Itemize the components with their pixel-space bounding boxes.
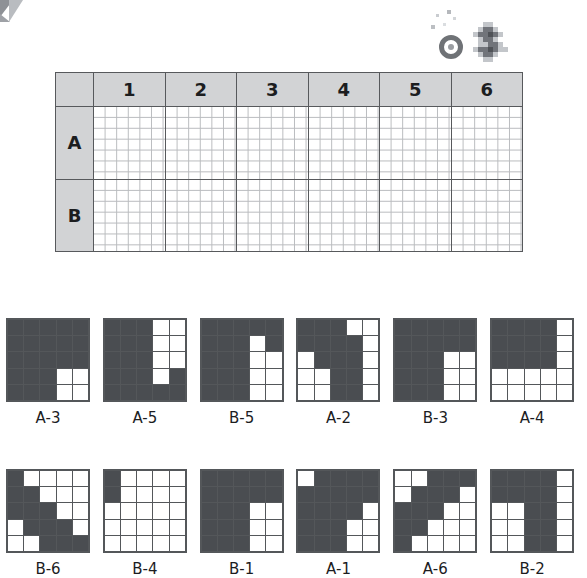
pattern-cell-r5-c3 bbox=[40, 385, 55, 400]
pattern-cell-r1-c3 bbox=[137, 320, 152, 335]
pattern-cell-r1-c3 bbox=[234, 471, 249, 486]
pattern-cell-r3-c4 bbox=[57, 352, 72, 367]
pattern-tile-a-4[interactable]: A-4 bbox=[490, 318, 587, 427]
pattern-cell-r1-c2 bbox=[24, 320, 39, 335]
pattern-cell-r5-c1 bbox=[202, 536, 217, 551]
row-header-b: B bbox=[56, 180, 94, 252]
pattern-cell-r1-c5 bbox=[73, 320, 88, 335]
answer-block-b3[interactable] bbox=[237, 180, 309, 252]
pattern-cell-r1-c2 bbox=[315, 320, 330, 335]
pattern-tile-a-6[interactable]: A-6 bbox=[393, 469, 490, 578]
pattern-cell-r3-c1 bbox=[395, 503, 410, 518]
pattern-cell-r5-c3 bbox=[331, 536, 346, 551]
pattern-tile-a-3[interactable]: A-3 bbox=[6, 318, 103, 427]
pattern-cell-r1-c2 bbox=[24, 471, 39, 486]
pattern-cell-r2-c4 bbox=[57, 487, 72, 502]
pattern-cell-r5-c4 bbox=[153, 536, 168, 551]
pattern-grid bbox=[296, 469, 380, 553]
sparkle-pixel-icon bbox=[443, 23, 446, 26]
pattern-tile-a-1[interactable]: A-1 bbox=[296, 469, 393, 578]
pattern-cell-r2-c1 bbox=[395, 336, 410, 351]
pattern-cell-r4-c5 bbox=[557, 369, 572, 384]
pattern-cell-r2-c2 bbox=[218, 336, 233, 351]
pattern-tile-a-2[interactable]: A-2 bbox=[296, 318, 393, 427]
pattern-cell-r2-c1 bbox=[202, 336, 217, 351]
pixel-blob-cell bbox=[493, 52, 498, 57]
pattern-tile-b-3[interactable]: B-3 bbox=[393, 318, 490, 427]
pattern-cell-r2-c2 bbox=[508, 336, 523, 351]
pattern-cell-r2-c2 bbox=[218, 487, 233, 502]
pattern-cell-r1-c2 bbox=[121, 471, 136, 486]
pattern-tile-b-2[interactable]: B-2 bbox=[490, 469, 587, 578]
pattern-cell-r4-c1 bbox=[492, 520, 507, 535]
pattern-cell-r5-c5 bbox=[266, 385, 281, 400]
pattern-cell-r3-c5 bbox=[73, 503, 88, 518]
pattern-cell-r4-c5 bbox=[73, 520, 88, 535]
pattern-label: A-2 bbox=[296, 409, 380, 427]
answer-block-a6[interactable] bbox=[452, 107, 523, 179]
answer-block-a3[interactable] bbox=[237, 107, 309, 179]
pattern-cell-r5-c5 bbox=[73, 536, 88, 551]
pattern-cell-r4-c2 bbox=[412, 520, 427, 535]
pattern-cell-r1-c4 bbox=[444, 320, 459, 335]
pattern-cell-r1-c3 bbox=[428, 471, 443, 486]
pattern-cell-r4-c1 bbox=[395, 369, 410, 384]
answer-block-a4[interactable] bbox=[309, 107, 381, 179]
answer-block-b4[interactable] bbox=[309, 180, 381, 252]
pattern-cell-r1-c1 bbox=[298, 320, 313, 335]
pattern-cell-r2-c2 bbox=[315, 336, 330, 351]
pattern-tile-b-4[interactable]: B-4 bbox=[103, 469, 200, 578]
pattern-cell-r1-c4 bbox=[153, 471, 168, 486]
answer-block-a5[interactable] bbox=[380, 107, 452, 179]
pattern-cell-r3-c4 bbox=[444, 503, 459, 518]
pattern-cell-r1-c4 bbox=[250, 471, 265, 486]
pattern-cell-r4-c1 bbox=[298, 369, 313, 384]
pattern-cell-r5-c2 bbox=[412, 385, 427, 400]
pattern-cell-r3-c5 bbox=[363, 503, 378, 518]
pattern-label: B-1 bbox=[200, 560, 284, 578]
pattern-cell-r4-c2 bbox=[315, 520, 330, 535]
pattern-cell-r2-c2 bbox=[412, 336, 427, 351]
pattern-cell-r4-c4 bbox=[444, 520, 459, 535]
pattern-cell-r4-c1 bbox=[395, 520, 410, 535]
answer-block-a1[interactable] bbox=[94, 107, 166, 179]
pattern-cell-r3-c3 bbox=[40, 352, 55, 367]
pattern-cell-r5-c3 bbox=[234, 536, 249, 551]
pattern-cell-r1-c1 bbox=[105, 320, 120, 335]
pattern-cell-r4-c1 bbox=[105, 369, 120, 384]
pattern-cell-r4-c3 bbox=[234, 520, 249, 535]
pattern-tile-b-6[interactable]: B-6 bbox=[6, 469, 103, 578]
pattern-cell-r5-c4 bbox=[541, 385, 556, 400]
pattern-cell-r1-c3 bbox=[137, 471, 152, 486]
pattern-tile-b-1[interactable]: B-1 bbox=[200, 469, 297, 578]
pattern-cell-r3-c1 bbox=[395, 352, 410, 367]
pattern-cell-r5-c5 bbox=[73, 385, 88, 400]
pattern-cell-r1-c3 bbox=[525, 471, 540, 486]
pattern-cell-r5-c4 bbox=[57, 385, 72, 400]
pattern-cell-r3-c4 bbox=[153, 503, 168, 518]
pattern-cell-r1-c5 bbox=[170, 320, 185, 335]
pattern-cell-r5-c4 bbox=[57, 536, 72, 551]
answer-block-a2[interactable] bbox=[166, 107, 238, 179]
answer-block-b1[interactable] bbox=[94, 180, 166, 252]
pattern-tile-b-5[interactable]: B-5 bbox=[200, 318, 297, 427]
pattern-cell-r2-c2 bbox=[315, 487, 330, 502]
pattern-cell-r2-c3 bbox=[137, 336, 152, 351]
pattern-tile-a-5[interactable]: A-5 bbox=[103, 318, 200, 427]
pattern-cell-r1-c1 bbox=[105, 471, 120, 486]
pattern-cell-r3-c5 bbox=[557, 352, 572, 367]
pattern-cell-r4-c1 bbox=[298, 520, 313, 535]
pattern-cell-r2-c4 bbox=[541, 487, 556, 502]
pattern-cell-r3-c1 bbox=[492, 503, 507, 518]
pattern-cell-r4-c4 bbox=[444, 369, 459, 384]
pattern-cell-r4-c5 bbox=[557, 520, 572, 535]
answer-block-b6[interactable] bbox=[452, 180, 523, 252]
pattern-cell-r1-c5 bbox=[363, 320, 378, 335]
pattern-cell-r2-c1 bbox=[105, 487, 120, 502]
pattern-label: A-6 bbox=[393, 560, 477, 578]
answer-block-b5[interactable] bbox=[380, 180, 452, 252]
pattern-cell-r5-c3 bbox=[137, 536, 152, 551]
pattern-cell-r4-c5 bbox=[170, 520, 185, 535]
pattern-cell-r3-c2 bbox=[121, 503, 136, 518]
answer-block-b2[interactable] bbox=[166, 180, 238, 252]
